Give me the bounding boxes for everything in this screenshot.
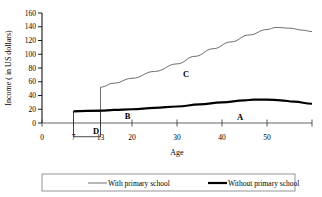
region-label-D: D bbox=[93, 126, 99, 136]
x-tick-label: 30 bbox=[173, 133, 181, 142]
series-line-1 bbox=[101, 27, 313, 110]
x-axis-tick-labels: 071320304050 bbox=[40, 133, 271, 142]
x-axis-title: Age bbox=[170, 148, 184, 157]
y-tick-label: 80 bbox=[29, 64, 37, 73]
region-label-C: C bbox=[183, 69, 189, 79]
region-label-B: B bbox=[125, 111, 131, 121]
y-tick-label: 120 bbox=[25, 36, 37, 45]
y-tick-label: 20 bbox=[29, 105, 37, 114]
y-tick-label: 100 bbox=[25, 50, 37, 59]
income-age-line-chart: 020406080100120140160 071320304050 Incom… bbox=[0, 0, 322, 197]
x-tick-label: 50 bbox=[263, 133, 271, 142]
chart-series bbox=[74, 27, 313, 111]
y-axis-ticks bbox=[38, 13, 42, 123]
legend-label-2: Without primary school bbox=[228, 179, 299, 188]
x-tick-label: 40 bbox=[218, 133, 226, 142]
chart-container: 020406080100120140160 071320304050 Incom… bbox=[0, 0, 322, 197]
y-axis-tick-labels: 020406080100120140160 bbox=[25, 9, 37, 128]
y-axis-title: Income ( in US dollars) bbox=[4, 30, 13, 106]
y-tick-label: 0 bbox=[32, 119, 36, 128]
region-label-A: A bbox=[237, 112, 244, 122]
y-tick-label: 140 bbox=[25, 22, 37, 31]
x-tick-label: 20 bbox=[128, 133, 136, 142]
y-tick-label: 40 bbox=[29, 91, 37, 100]
x-tick-label: 0 bbox=[40, 133, 44, 142]
series-line-2 bbox=[74, 100, 313, 112]
y-tick-label: 60 bbox=[29, 77, 37, 86]
y-tick-label: 160 bbox=[25, 9, 37, 18]
legend-label-1: With primary school bbox=[108, 179, 170, 188]
